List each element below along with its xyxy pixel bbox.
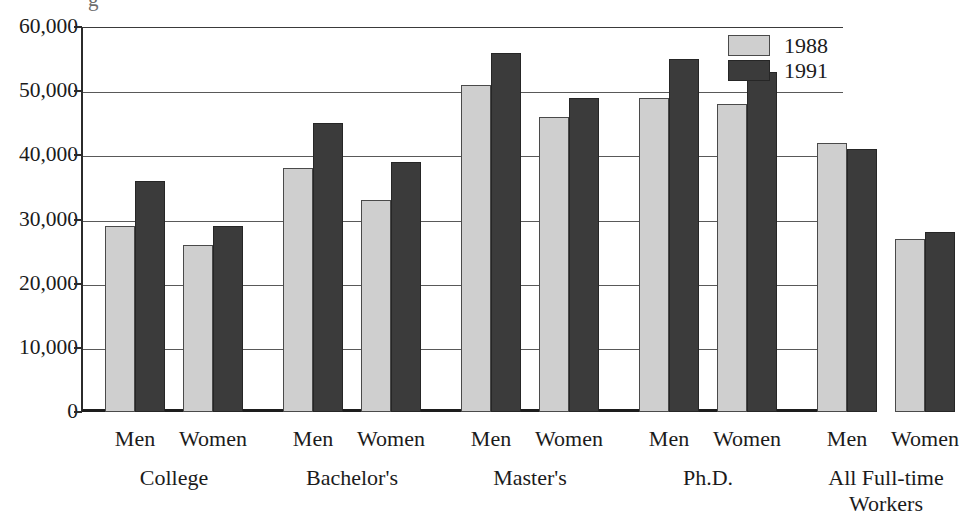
bar: [569, 98, 599, 412]
bars-layer: [83, 27, 843, 412]
x-sublabel-women: Women: [891, 428, 959, 450]
y-tick-mark: [74, 283, 82, 285]
bar: [669, 59, 699, 412]
y-tick-mark: [74, 90, 82, 92]
y-tick-label: 40,000: [4, 145, 78, 167]
bar: [461, 85, 491, 412]
x-group-label: College: [140, 465, 208, 491]
legend-item-1991: 1991: [728, 59, 840, 82]
x-sublabel-women: Women: [713, 428, 781, 450]
legend-label-1991: 1991: [784, 60, 828, 82]
bar: [925, 232, 955, 412]
y-tick-mark: [74, 154, 82, 156]
legend-label-1988: 1988: [784, 35, 828, 57]
x-sublabel-women: Women: [179, 428, 247, 450]
bar: [213, 226, 243, 412]
x-group-label: All Full-timeWorkers: [828, 465, 944, 515]
y-tick-mark: [74, 26, 82, 28]
x-axis-labels: MenWomenCollegeMenWomenBachelor'sMenWome…: [0, 420, 855, 500]
bar: [717, 104, 747, 412]
cropped-title-fragment: g: [88, 0, 99, 12]
x-sublabel-men: Men: [293, 428, 333, 450]
y-tick-label: 30,000: [4, 209, 78, 231]
x-group-label: Master's: [493, 465, 567, 491]
legend-swatch-1988: [728, 35, 770, 56]
bar: [283, 168, 313, 412]
bar: [105, 226, 135, 412]
legend-item-1988: 1988: [728, 34, 840, 57]
bar: [391, 162, 421, 412]
y-tick-label: 50,000: [4, 80, 78, 102]
legend: 1988 1991: [728, 32, 840, 84]
bar: [313, 123, 343, 412]
x-sublabel-men: Men: [471, 428, 511, 450]
x-sublabel-men: Men: [115, 428, 155, 450]
y-tick-mark: [74, 347, 82, 349]
y-tick-mark: [74, 411, 82, 413]
legend-swatch-1991: [728, 60, 770, 81]
bar: [847, 149, 877, 412]
bar: [895, 239, 925, 412]
y-tick-mark: [74, 219, 82, 221]
bar: [183, 245, 213, 412]
y-tick-label: 60,000: [4, 16, 78, 38]
x-sublabel-women: Women: [535, 428, 603, 450]
x-sublabel-women: Women: [357, 428, 425, 450]
bar: [135, 181, 165, 412]
bar: [817, 143, 847, 413]
bar: [491, 53, 521, 412]
bar: [539, 117, 569, 412]
x-sublabel-men: Men: [827, 428, 867, 450]
y-axis: 010,00020,00030,00040,00050,00060,000: [0, 27, 78, 412]
x-group-label: Bachelor's: [306, 465, 398, 491]
y-tick-label: 10,000: [4, 337, 78, 359]
x-group-label: Ph.D.: [683, 465, 733, 491]
bar: [747, 72, 777, 412]
bar: [639, 98, 669, 412]
y-tick-label: 20,000: [4, 273, 78, 295]
bar: [361, 200, 391, 412]
x-sublabel-men: Men: [649, 428, 689, 450]
